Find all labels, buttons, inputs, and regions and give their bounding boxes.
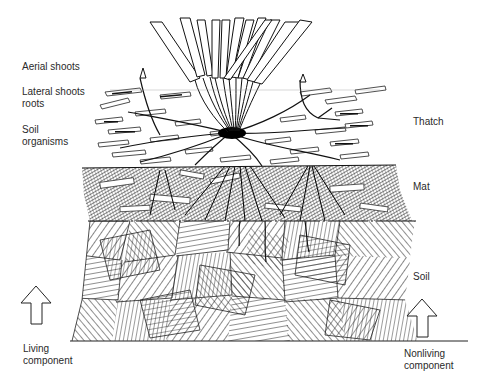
aerial-shoots	[150, 18, 312, 84]
label-nonliving-component: Nonliving component	[404, 348, 453, 372]
living-component-arrow	[21, 286, 51, 324]
label-lateral-shoots-roots: Lateral shoots roots	[22, 86, 85, 110]
label-living-component: Living component	[23, 343, 72, 367]
label-soil-organisms: Soil organisms	[22, 124, 68, 148]
label-soil: Soil	[413, 271, 430, 283]
turf-profile-illustration	[0, 0, 484, 388]
label-mat: Mat	[413, 181, 430, 193]
shoot-stems	[195, 77, 260, 132]
label-thatch: Thatch	[413, 116, 444, 128]
soil-layer	[60, 215, 430, 345]
label-aerial-shoots: Aerial shoots	[22, 61, 80, 73]
mat-layer	[80, 160, 420, 225]
